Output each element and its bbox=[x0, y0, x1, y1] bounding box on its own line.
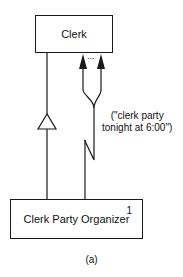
fork-left bbox=[83, 68, 94, 108]
fork-right bbox=[94, 68, 101, 108]
inheritance-triangle-icon bbox=[38, 114, 56, 129]
arrowhead-right-icon bbox=[97, 54, 105, 69]
clerk-party-organizer-label: Clerk Party Organizer bbox=[24, 213, 130, 225]
figure-caption: (a) bbox=[0, 254, 183, 265]
diagram-canvas: Clerk ... ("clerk party tonight at 6:00"… bbox=[0, 0, 183, 277]
arrowhead-left-icon bbox=[79, 54, 87, 69]
clerk-party-organizer-box: Clerk Party Organizer 1 bbox=[10, 199, 143, 239]
multiplicity-label: 1 bbox=[126, 205, 132, 216]
message-label: ("clerk party tonight at 6:00") bbox=[102, 110, 172, 134]
fanout-ellipsis: ... bbox=[87, 51, 95, 61]
clerk-class-box: Clerk bbox=[35, 15, 113, 53]
clerk-label: Clerk bbox=[61, 28, 87, 40]
message-label-line-1: ("clerk party bbox=[102, 110, 172, 122]
message-label-line-2: tonight at 6:00") bbox=[102, 122, 172, 134]
zigzag-icon bbox=[85, 108, 94, 160]
